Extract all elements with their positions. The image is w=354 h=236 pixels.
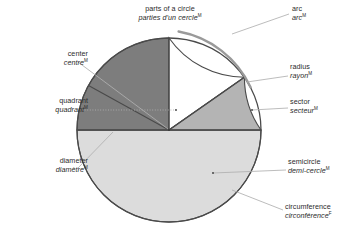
leader-dot-semicircle [212, 172, 214, 174]
page-title: parts of a circle parties d’un cercleM [106, 4, 234, 22]
leader-dot-center [168, 129, 170, 131]
label-center-fr: centreM [18, 58, 88, 67]
leader-arc [232, 14, 289, 34]
leader-semicircle [213, 170, 286, 173]
leader-radius [247, 76, 288, 82]
leader-sector [252, 108, 288, 110]
label-semicircle: semicircle demi-cercleM [288, 157, 352, 175]
label-circumference-fr: circonférenceF [285, 211, 353, 220]
label-quadrant: quadrant quadrantM [8, 96, 88, 114]
label-radius-en: radius [290, 62, 350, 71]
label-diameter: diameter diamètreM [8, 156, 88, 174]
leader-dot-quadrant [175, 109, 177, 111]
label-arc-fr: arcM [292, 13, 350, 22]
label-arc-en: arc [292, 4, 350, 13]
label-arc: arc arcM [292, 4, 350, 22]
label-radius: radius rayonM [290, 62, 350, 80]
label-quadrant-en: quadrant [8, 96, 88, 105]
label-center-en: center [18, 49, 88, 58]
leader-center [78, 62, 168, 129]
title-en: parts of a circle [106, 4, 234, 13]
title-fr: parties d’un cercleM [106, 13, 234, 22]
label-diameter-fr: diamètreM [8, 165, 88, 174]
leader-dot-sector [251, 109, 253, 111]
label-center: center centreM [18, 49, 88, 67]
label-sector: sector secteurM [290, 97, 350, 115]
label-radius-fr: rayonM [290, 71, 350, 80]
diagram-canvas: parts of a circle parties d’un cercleM a… [0, 0, 354, 236]
label-quadrant-fr: quadrantM [8, 105, 88, 114]
label-circumference-en: circumference [285, 202, 353, 211]
label-sector-en: sector [290, 97, 350, 106]
label-semicircle-fr: demi-cercleM [288, 166, 352, 175]
label-circumference: circumference circonférenceF [285, 202, 353, 220]
label-diameter-en: diameter [8, 156, 88, 165]
label-sector-fr: secteurM [290, 106, 350, 115]
label-semicircle-en: semicircle [288, 157, 352, 166]
leader-lines [0, 0, 354, 236]
leader-circumference [232, 190, 283, 210]
